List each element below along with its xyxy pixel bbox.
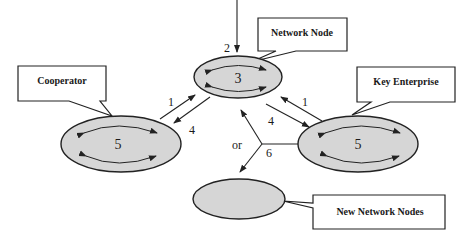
- callout-cooperator: Cooperator: [18, 66, 112, 116]
- callout-cooperator-label: Cooperator: [37, 75, 87, 86]
- edge-label-4-right: 4: [268, 114, 274, 128]
- callout-network-node-label: Network Node: [271, 27, 333, 38]
- edge-label-2: 2: [224, 41, 230, 55]
- node-key-enterprise: 5: [298, 116, 418, 172]
- edge-label-1-left: 1: [168, 95, 174, 109]
- edge-label-1-right: 1: [302, 95, 308, 109]
- node-network-node: 3: [194, 56, 282, 98]
- node-key-enterprise-label: 5: [355, 137, 362, 152]
- callout-network-node: Network Node: [251, 18, 347, 62]
- node-network-node-label: 3: [235, 71, 242, 86]
- callout-key-enterprise: Key Enterprise: [352, 67, 455, 115]
- callout-new-network-nodes-label: New Network Nodes: [336, 206, 423, 217]
- node-cooperator-label: 5: [115, 137, 122, 152]
- node-new-network-nodes: [193, 179, 285, 219]
- edge-label-4-left: 4: [189, 123, 195, 137]
- node-cooperator: 5: [61, 116, 181, 172]
- edge-cooperator-to-network: [160, 95, 195, 119]
- edge-split-to-network: [241, 110, 262, 144]
- edge-split-to-new-nodes: [240, 144, 262, 172]
- callout-key-enterprise-label: Key Enterprise: [373, 76, 439, 87]
- network-diagram: Network Node Cooperator Key Enterprise N…: [0, 0, 472, 242]
- edge-network-to-cooperator: [174, 97, 210, 123]
- edge-label-or: or: [232, 138, 242, 152]
- callout-new-network-nodes: New Network Nodes: [283, 195, 445, 229]
- edge-label-6: 6: [266, 146, 272, 160]
